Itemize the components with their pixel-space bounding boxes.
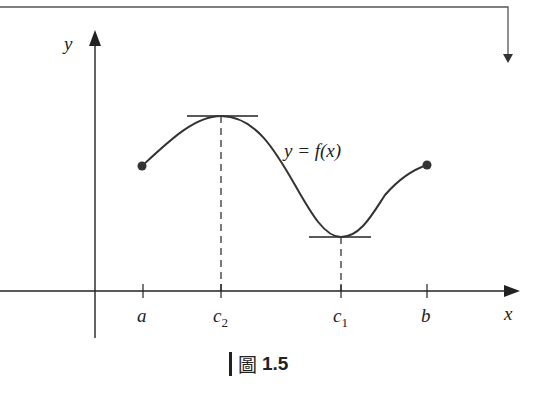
top-connector-line xyxy=(0,7,508,56)
x-axis-arrow-icon xyxy=(504,285,520,297)
caption-prefix: 圖 xyxy=(238,350,257,377)
y-axis-label: y xyxy=(62,33,73,54)
endpoint-b xyxy=(423,161,432,170)
tick-label-c1: c1 xyxy=(333,305,348,330)
tick-label-a: a xyxy=(137,305,147,326)
y-axis-arrow-icon xyxy=(89,30,101,46)
caption-bar xyxy=(229,352,232,376)
down-arrow-icon xyxy=(503,54,513,63)
extreme-value-figure: y x y = f(x) a c2 c1 b xyxy=(0,0,553,398)
figure-caption: 圖 1.5 xyxy=(229,350,288,377)
endpoint-a xyxy=(138,162,147,171)
caption-number: 1.5 xyxy=(262,353,288,375)
curve-f xyxy=(142,116,427,237)
tick-label-c2: c2 xyxy=(213,305,228,330)
curve-label: y = f(x) xyxy=(282,140,341,162)
tick-label-b: b xyxy=(421,305,431,326)
x-axis-label: x xyxy=(503,303,513,324)
